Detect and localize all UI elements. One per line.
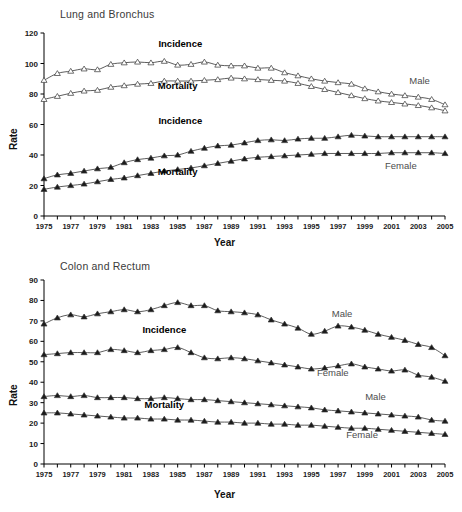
chart-annotation-male: Male [365, 391, 386, 402]
chart-panel-colon: Colon and Rectum Rate Year 0102030405060… [0, 256, 462, 512]
chart-annotation-incidence: Incidence [158, 115, 202, 126]
x-tick-label: 1981 [116, 222, 133, 231]
x-tick-label: 1981 [116, 470, 133, 479]
x-tick-label: 2003 [410, 222, 427, 231]
x-tick-label: 1977 [62, 222, 79, 231]
series-male-incidence [41, 300, 448, 358]
data-point-marker [268, 317, 274, 322]
data-point-marker [175, 300, 181, 305]
chart-annotation-female: Female [385, 160, 417, 171]
series-male-mortality [41, 393, 448, 423]
x-tick-label: 1989 [223, 222, 240, 231]
y-tick-label: 10 [29, 440, 38, 449]
data-point-marker [442, 102, 448, 107]
x-tick-label: 1995 [303, 470, 320, 479]
y-tick-label: 20 [29, 182, 38, 191]
x-tick-label: 1999 [356, 470, 373, 479]
y-tick-label: 80 [29, 90, 38, 99]
y-tick-label: 60 [29, 121, 38, 130]
y-tick-label: 80 [29, 296, 38, 305]
x-tick-label: 1991 [250, 470, 267, 479]
chart-annotation-female: Female [317, 367, 349, 378]
x-tick-label: 1977 [62, 470, 79, 479]
x-tick-label: 1997 [330, 222, 347, 231]
y-tick-label: 40 [29, 151, 38, 160]
data-point-marker [41, 321, 47, 326]
series-female-mortality [41, 410, 448, 436]
x-tick-label: 1983 [143, 470, 160, 479]
x-tick-label: 1985 [169, 470, 186, 479]
data-point-marker [442, 353, 448, 358]
chart-annotation-mortality: Mortality [145, 399, 185, 410]
chart-annotation-mortality: Mortality [158, 80, 198, 91]
x-tick-label: 2005 [437, 470, 454, 479]
plot-area-lung: 0204060801001201975197719791981198319851… [0, 0, 462, 256]
x-tick-label: 1995 [303, 222, 320, 231]
figure-root: Lung and Bronchus Rate Year 020406080100… [0, 0, 462, 512]
data-point-marker [188, 350, 194, 355]
x-tick-label: 1997 [330, 470, 347, 479]
y-tick-label: 40 [29, 378, 38, 387]
data-point-marker [41, 77, 47, 82]
x-tick-label: 2001 [383, 470, 400, 479]
y-tick-label: 120 [25, 29, 39, 38]
y-tick-label: 0 [34, 212, 39, 221]
x-tick-label: 1975 [36, 222, 53, 231]
data-point-marker [68, 312, 74, 317]
x-tick-label: 1979 [89, 470, 106, 479]
series-male-incidence [41, 58, 448, 106]
chart-annotation-incidence: Incidence [142, 324, 186, 335]
plot-area-colon: 0102030405060708090197519771979198119831… [0, 256, 462, 512]
x-tick-label: 1983 [143, 222, 160, 231]
x-tick-label: 1991 [250, 222, 267, 231]
data-point-marker [348, 361, 354, 366]
data-point-marker [121, 307, 127, 312]
x-tick-label: 1985 [169, 222, 186, 231]
y-tick-label: 60 [29, 337, 38, 346]
y-tick-label: 30 [29, 399, 38, 408]
series-line [44, 78, 445, 111]
x-tick-label: 2001 [383, 222, 400, 231]
y-tick-label: 50 [29, 358, 38, 367]
x-tick-label: 2005 [437, 222, 454, 231]
x-tick-label: 1987 [196, 470, 213, 479]
chart-annotation-mortality: Mortality [158, 166, 198, 177]
x-tick-label: 1989 [223, 470, 240, 479]
series-female-incidence [41, 345, 448, 384]
x-tick-label: 1993 [276, 470, 293, 479]
series-male-mortality [41, 75, 448, 113]
x-tick-label: 2003 [410, 470, 427, 479]
x-tick-label: 1999 [356, 222, 373, 231]
y-tick-label: 100 [25, 60, 39, 69]
data-point-marker [201, 59, 207, 64]
series-line [44, 347, 445, 381]
chart-annotation-female: Female [346, 429, 378, 440]
chart-annotation-male: Male [332, 308, 353, 319]
y-tick-label: 90 [29, 276, 38, 285]
y-tick-label: 0 [34, 460, 39, 469]
chart-annotation-male: Male [409, 75, 430, 86]
data-point-marker [54, 393, 60, 398]
x-tick-label: 1993 [276, 222, 293, 231]
y-tick-label: 70 [29, 317, 38, 326]
chart-panel-lung: Lung and Bronchus Rate Year 020406080100… [0, 0, 462, 256]
chart-annotation-incidence: Incidence [158, 38, 202, 49]
x-tick-label: 1979 [89, 222, 106, 231]
y-tick-label: 20 [29, 419, 38, 428]
x-tick-label: 1987 [196, 222, 213, 231]
x-tick-label: 1975 [36, 470, 53, 479]
